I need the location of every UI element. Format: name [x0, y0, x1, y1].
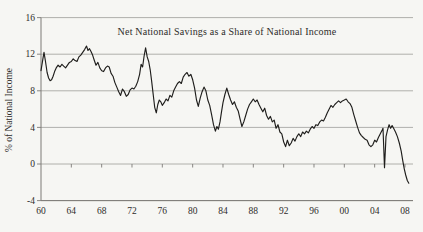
y-tick-label: 8	[30, 86, 35, 96]
y-tick-label: 4	[30, 123, 35, 133]
x-tick-label: 80	[188, 206, 198, 216]
y-axis-title: % of National Income	[4, 68, 14, 152]
y-tick-label: -4	[27, 196, 35, 206]
x-tick-label: 04	[370, 206, 380, 216]
x-tick-label: 64	[67, 206, 77, 216]
x-tick-label: 96	[309, 206, 319, 216]
x-tick-label: 68	[97, 206, 107, 216]
savings-line-series	[41, 46, 409, 183]
savings-chart-figure: Net National Savings as a Share of Natio…	[0, 0, 423, 232]
x-tick-label: 08	[400, 206, 410, 216]
x-tick-label: 72	[127, 206, 137, 216]
y-tick-label: 12	[26, 49, 36, 59]
y-tick-label: 0	[30, 159, 35, 169]
x-tick-label: 88	[249, 206, 259, 216]
x-tick-label: 60	[36, 206, 46, 216]
x-tick-label: 00	[340, 206, 350, 216]
y-tick-label: 16	[26, 13, 36, 23]
x-tick-label: 76	[158, 206, 168, 216]
x-tick-label: 92	[279, 206, 289, 216]
x-tick-label: 84	[218, 206, 228, 216]
chart-title: Net National Savings as a Share of Natio…	[41, 26, 413, 37]
